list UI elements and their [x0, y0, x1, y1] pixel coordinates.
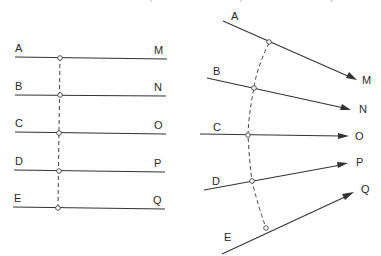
- label-d: D: [15, 155, 23, 167]
- intersection-node: [267, 40, 272, 45]
- right-line-b-n: B N: [207, 65, 367, 115]
- diagram-canvas: A M B N C O D P E Q: [0, 0, 381, 256]
- label-o: O: [154, 119, 163, 131]
- label-n: N: [154, 81, 162, 93]
- label-e: E: [224, 231, 231, 243]
- arrowhead-icon: [342, 192, 354, 200]
- intersection-node: [57, 169, 62, 174]
- label-e: E: [14, 192, 21, 204]
- arrowhead-icon: [337, 162, 348, 168]
- label-a: A: [231, 10, 239, 22]
- right-line-e-q: E Q: [222, 183, 370, 254]
- left-line-c-o: C O: [15, 117, 166, 135]
- right-line-a-m: A M: [223, 10, 371, 86]
- arrowhead-icon: [338, 133, 349, 139]
- intersection-node: [252, 86, 257, 91]
- intersection-node: [250, 179, 255, 184]
- label-m: M: [154, 44, 163, 56]
- label-c: C: [15, 117, 23, 129]
- intersection-node: [246, 133, 251, 138]
- intersection-node: [56, 206, 61, 211]
- right-diagram: A M B N C O D P E Q: [200, 10, 371, 254]
- left-line-d-p: D P: [14, 155, 165, 173]
- label-n: N: [359, 103, 367, 115]
- intersection-node: [57, 131, 62, 136]
- label-a: A: [15, 42, 23, 54]
- label-d: D: [212, 175, 220, 187]
- label-c: C: [213, 121, 221, 133]
- label-p: P: [356, 156, 363, 168]
- right-line-c-o: C O: [200, 121, 364, 142]
- label-b: B: [213, 65, 220, 77]
- label-m: M: [362, 74, 371, 86]
- intersection-node: [58, 93, 63, 98]
- left-line-a-m: A M: [15, 42, 167, 60]
- right-line-d-p: D P: [204, 156, 363, 190]
- left-diagram: A M B N C O D P E Q: [13, 42, 167, 210]
- label-q: Q: [153, 194, 162, 206]
- label-o: O: [355, 130, 364, 142]
- left-line-b-n: B N: [15, 80, 166, 97]
- label-b: B: [15, 80, 22, 92]
- arrowhead-icon: [340, 104, 351, 110]
- label-p: P: [154, 157, 161, 169]
- right-connector-dashed-curve: [248, 43, 269, 228]
- arrowhead-icon: [346, 72, 357, 80]
- left-line-e-q: E Q: [13, 192, 165, 210]
- label-q: Q: [361, 183, 370, 195]
- intersection-node: [58, 56, 63, 61]
- intersection-node: [264, 226, 269, 231]
